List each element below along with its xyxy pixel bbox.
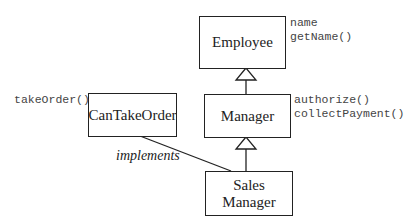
class-sales-manager: Sales Manager: [205, 171, 293, 216]
class-name-line2: Manager: [222, 194, 275, 211]
employee-members: namegetName(): [290, 16, 352, 44]
member: takeOrder(): [14, 93, 90, 107]
member: getName(): [290, 30, 352, 44]
member: collectPayment(): [294, 107, 404, 121]
inheritance-arrow-icon: [236, 68, 256, 80]
inheritance-arrow-icon: [236, 137, 256, 149]
class-manager: Manager: [204, 94, 291, 138]
member: authorize(): [294, 93, 404, 107]
class-name: Employee: [212, 34, 273, 51]
class-can-take-order: CanTakeOrder: [88, 93, 177, 137]
class-name-line1: Sales: [233, 177, 265, 194]
implements-label: implements: [116, 148, 180, 164]
class-name: Manager: [221, 108, 274, 125]
class-employee: Employee: [199, 16, 286, 69]
class-name: CanTakeOrder: [88, 107, 176, 124]
manager-members: authorize()collectPayment(): [294, 93, 404, 121]
can-take-order-members: takeOrder(): [14, 93, 90, 107]
member: name: [290, 16, 352, 30]
